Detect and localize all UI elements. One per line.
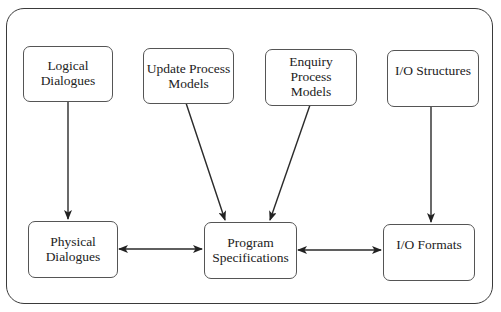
node-label: Enquiry Process Models (289, 54, 333, 99)
node-enquiry-process-models: Enquiry Process Models (265, 49, 357, 106)
node-label: Program Specifications (212, 235, 288, 265)
node-label: Physical Dialogues (46, 234, 101, 264)
node-logical-dialogues: Logical Dialogues (23, 46, 113, 102)
node-io-structures: I/O Structures (387, 50, 479, 107)
node-label: I/O Formats (396, 237, 462, 252)
node-label: Update Process Models (147, 61, 231, 91)
node-label: Logical Dialogues (41, 58, 96, 88)
node-label: I/O Structures (395, 63, 471, 78)
node-physical-dialogues: Physical Dialogues (28, 221, 118, 278)
node-program-specifications: Program Specifications (204, 222, 297, 279)
node-io-formats: I/O Formats (383, 224, 475, 281)
node-update-process-models: Update Process Models (143, 48, 234, 104)
